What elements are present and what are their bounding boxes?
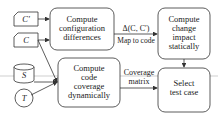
config-diff-label: Compute configuration differences: [50, 15, 114, 42]
code-coverage-label: Compute code coverage dynamically: [58, 64, 120, 100]
delta-label: Δ(C, C′): [116, 24, 156, 33]
map-to-code-label: Map to code: [114, 36, 158, 45]
c-label: C: [14, 36, 38, 45]
change-impact-label: Compute change impact statically: [158, 15, 210, 51]
t-label: T: [15, 94, 33, 103]
arrow-t-to-coverage: [31, 82, 57, 95]
s-label: S: [14, 71, 34, 80]
coverage-matrix-label: Coverage matrix: [120, 68, 158, 86]
c-prime-label: C′: [14, 15, 38, 24]
select-test-label: Select test case: [158, 79, 210, 97]
